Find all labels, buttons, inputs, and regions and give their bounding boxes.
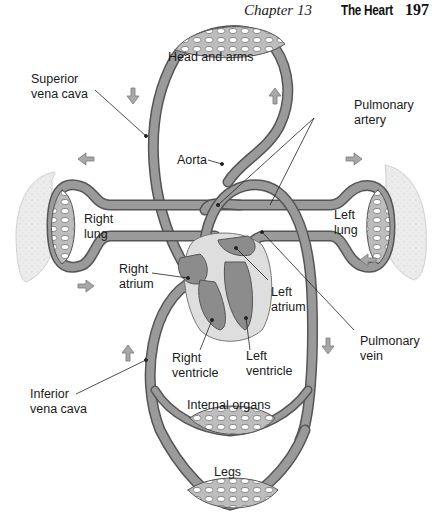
label-aorta: Aorta	[177, 153, 207, 168]
label-right-atrium: Right atrium	[119, 262, 154, 292]
label-pulmonary-artery: Pulmonary artery	[354, 98, 414, 128]
arrow-up-icon	[269, 88, 281, 104]
label-right-lung: Right lung	[84, 212, 113, 242]
arrow-left-icon	[78, 153, 94, 165]
label-internal-organs: Internal organs	[187, 398, 270, 413]
heart	[178, 233, 271, 341]
arrow-down-icon	[322, 338, 334, 354]
label-right-ventricle: Right ventricle	[172, 351, 219, 381]
label-left-lung: Left lung	[334, 208, 358, 238]
right-atrium-shape	[178, 254, 207, 284]
arrow-right-icon	[346, 153, 362, 165]
arrow-down-icon	[127, 88, 139, 104]
label-superior-vena-cava: Superior vena cava	[31, 72, 88, 102]
label-legs: Legs	[214, 465, 241, 480]
arrow-right-icon	[78, 280, 94, 292]
label-left-atrium: Left atrium	[271, 285, 306, 315]
label-pulmonary-vein: Pulmonary vein	[360, 334, 420, 364]
label-inferior-vena-cava: Inferior vena cava	[30, 387, 87, 417]
label-left-ventricle: Left ventricle	[246, 349, 293, 379]
arrow-up-icon	[122, 345, 134, 361]
label-head-and-arms: Head and arms	[168, 50, 253, 65]
